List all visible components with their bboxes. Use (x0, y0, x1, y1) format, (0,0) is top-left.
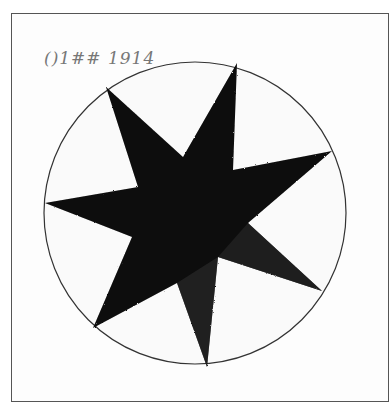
star-drawing (0, 0, 392, 416)
